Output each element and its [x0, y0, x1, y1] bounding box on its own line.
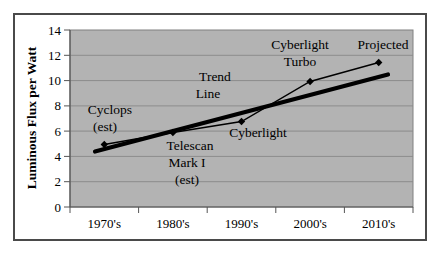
y-tick-label: 4 — [55, 149, 62, 164]
y-tick-label: 12 — [48, 48, 61, 63]
annotation-telescan-est: (est) — [175, 172, 199, 187]
x-tick-label: 1990's — [225, 216, 258, 231]
annotation-cyberlight-turbo: Cyberlight — [271, 37, 329, 52]
annotation-projected: Projected — [358, 37, 409, 52]
line-chart: 0 2 4 6 8 10 12 14 1970's 1980's 1990's … — [0, 0, 440, 256]
x-axis-ticks — [70, 207, 413, 213]
y-tick-label: 2 — [55, 174, 62, 189]
annotation-cyberlight: Cyberlight — [229, 125, 287, 140]
annotation-telescan: Telescan — [166, 138, 213, 153]
annotation-cyclops-est: (est) — [93, 119, 117, 134]
y-tick-label: 10 — [48, 73, 61, 88]
y-tick-label: 8 — [55, 98, 62, 113]
annotation-cyclops: Cyclops — [88, 102, 132, 117]
chart-page: 0 2 4 6 8 10 12 14 1970's 1980's 1990's … — [0, 0, 440, 256]
y-tick-label: 14 — [48, 23, 62, 38]
annotation-telescan-mark: Mark I — [168, 155, 206, 170]
x-tick-label: 1970's — [88, 216, 121, 231]
annotation-cyberlight-turbo-line2: Turbo — [284, 54, 317, 69]
x-tick-label: 2010's — [362, 216, 395, 231]
y-axis-title: Luminous Flux per Watt — [24, 46, 39, 189]
y-axis-ticks — [64, 30, 70, 207]
annotation-trend: Trend — [199, 69, 231, 84]
annotation-trend-line: Line — [196, 86, 221, 101]
y-tick-label: 6 — [55, 124, 62, 139]
y-tick-label: 0 — [55, 200, 62, 215]
x-tick-label: 1980's — [156, 216, 189, 231]
x-tick-label: 2000's — [293, 216, 326, 231]
